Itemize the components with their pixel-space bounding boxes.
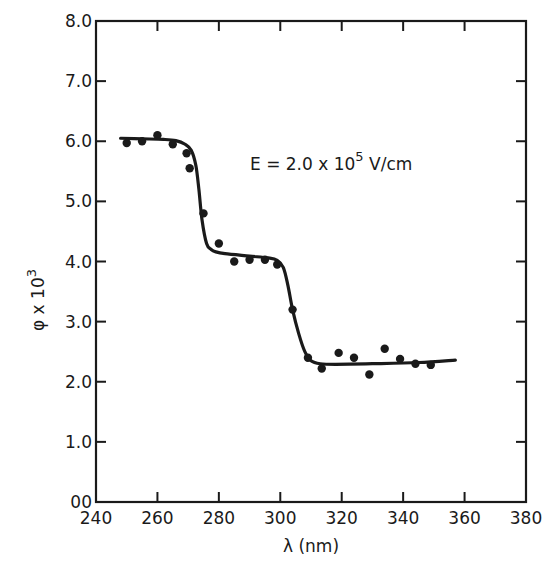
annotation-exponent: 5 (355, 149, 363, 164)
x-tick-label: 300 (264, 508, 296, 528)
x-tick-label: 320 (325, 508, 357, 528)
data-point (199, 209, 207, 217)
data-point (230, 257, 238, 265)
x-tick-label: 260 (141, 508, 173, 528)
data-point (123, 139, 131, 147)
data-point (261, 255, 269, 263)
x-tick-label: 280 (203, 508, 235, 528)
y-tick-label: 2.0 (65, 372, 92, 392)
data-point (153, 131, 161, 139)
y-tick-label: 8.0 (65, 11, 92, 31)
data-point (185, 164, 193, 172)
y-axis-title-exponent: 3 (24, 269, 39, 277)
data-point (288, 305, 296, 313)
y-tick-label: 4.0 (65, 252, 92, 272)
x-tick-label: 380 (510, 508, 542, 528)
data-point (334, 349, 342, 357)
data-point (350, 354, 358, 362)
y-tick-label: 1.0 (65, 432, 92, 452)
x-axis-title: λ (nm) (283, 536, 339, 556)
data-point (182, 149, 190, 157)
annotation-base: E = 2.0 x 10 (250, 154, 355, 174)
y-tick-label: 7.0 (65, 71, 92, 91)
field-strength-annotation: E = 2.0 x 105 V/cm (250, 149, 412, 174)
data-point (304, 354, 312, 362)
x-tick-label: 360 (448, 508, 480, 528)
annotation-unit: V/cm (364, 154, 413, 174)
x-tick-label: 340 (387, 508, 419, 528)
y-axis-title-base: φ x 10 (28, 277, 48, 331)
data-point (396, 355, 404, 363)
data-point (169, 140, 177, 148)
data-point (138, 137, 146, 145)
chart: 240260280300320340360380 001.02.03.04.05… (0, 0, 555, 565)
svg-text:φ x 103: φ x 103 (24, 269, 48, 331)
data-point (365, 370, 373, 378)
plot-border (96, 21, 526, 502)
data-point (411, 360, 419, 368)
y-tick-label: 6.0 (65, 131, 92, 151)
y-tick-label: 00 (70, 492, 92, 512)
axis-ticks (96, 21, 526, 502)
data-point (381, 344, 389, 352)
data-point (215, 239, 223, 247)
data-point (318, 364, 326, 372)
y-tick-label: 3.0 (65, 312, 92, 332)
y-tick-labels: 001.02.03.04.05.06.07.08.0 (65, 11, 92, 512)
y-tick-label: 5.0 (65, 191, 92, 211)
x-tick-labels: 240260280300320340360380 (80, 508, 542, 528)
data-point (427, 361, 435, 369)
data-point (245, 255, 253, 263)
plot-frame (96, 21, 526, 502)
data-point (273, 260, 281, 268)
y-axis-title: φ x 103 (24, 269, 48, 331)
